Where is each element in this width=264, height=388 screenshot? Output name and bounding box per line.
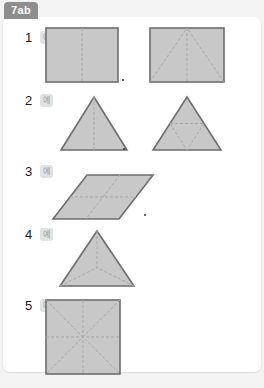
- rectangle-with-vertical-midline: [45, 27, 119, 83]
- section-tab[interactable]: 7ab: [4, 2, 38, 19]
- problem-row: 3 예: [3, 161, 261, 223]
- problem-row: 5 예: [3, 295, 261, 369]
- row-example-badge: 예: [40, 228, 53, 241]
- period-marker: [144, 214, 146, 216]
- problem-row: 1 예: [3, 27, 261, 89]
- rhombus-with-diagonals: [51, 173, 155, 221]
- period-marker: [123, 148, 125, 150]
- worksheet-sheet: 1 예 2 예: [3, 17, 261, 372]
- problem-row: 4 예: [3, 224, 261, 294]
- row-number: 2: [25, 94, 32, 108]
- row-example-badge: 예: [40, 94, 53, 107]
- problem-row: 2 예: [3, 90, 261, 158]
- worksheet-page: 7ab 1 예 2 예: [0, 0, 264, 388]
- row-number: 3: [25, 165, 32, 179]
- triangle-with-vertical-midline: [59, 95, 129, 152]
- triangle-with-medians: [58, 229, 136, 289]
- row-number: 4: [25, 228, 32, 242]
- triangle-with-midsegments: [151, 95, 223, 152]
- row-number: 5: [25, 299, 32, 313]
- row-number: 1: [25, 31, 32, 45]
- rectangle-with-inscribed-triangle: [149, 27, 225, 83]
- square-with-diagonals-and-midlines: [45, 299, 121, 375]
- period-marker: [122, 79, 124, 81]
